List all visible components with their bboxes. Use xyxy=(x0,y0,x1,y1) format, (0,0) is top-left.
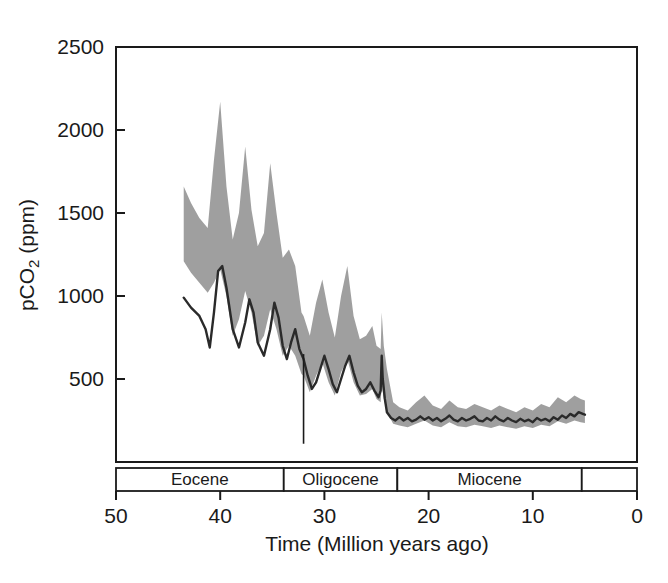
x-tick-label: 50 xyxy=(104,504,127,527)
y-tick-label: 500 xyxy=(69,367,104,390)
pco2-time-series-chart: 5001000150020002500 50403020100 EoceneOl… xyxy=(0,0,668,583)
y-axis-title-pre: pCO xyxy=(15,268,38,311)
y-tick-label: 1500 xyxy=(57,201,104,224)
x-axis-title: Time (Million years ago) xyxy=(265,532,488,555)
x-tick-label: 0 xyxy=(631,504,643,527)
epoch-band-label: Eocene xyxy=(171,470,229,489)
x-tick-label: 30 xyxy=(313,504,336,527)
y-tick-label: 1000 xyxy=(57,284,104,307)
y-axis-title: pCO2 (ppm) xyxy=(15,199,42,311)
epoch-band-label: Oligocene xyxy=(302,470,379,489)
x-tick-label: 40 xyxy=(209,504,232,527)
epoch-band-label: Miocene xyxy=(457,470,521,489)
y-axis-title-subscript: 2 xyxy=(25,260,42,268)
x-tick-label: 10 xyxy=(521,504,544,527)
epoch-band-row: EoceneOligoceneMiocene xyxy=(116,468,637,491)
y-tick-label: 2500 xyxy=(57,35,104,58)
svg-text:pCO2 (ppm): pCO2 (ppm) xyxy=(15,199,42,311)
y-axis-title-post: (ppm) xyxy=(15,199,38,260)
x-tick-label: 20 xyxy=(417,504,440,527)
y-tick-label: 2000 xyxy=(57,118,104,141)
epoch-band xyxy=(582,468,637,491)
chart-figure: 5001000150020002500 50403020100 EoceneOl… xyxy=(0,0,668,583)
